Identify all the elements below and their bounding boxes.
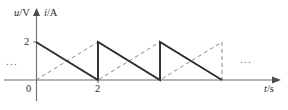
y-axis-right-label: i/A xyxy=(44,8,57,19)
y-axis-arrowhead xyxy=(33,8,40,16)
y-axis-left-label: u/V xyxy=(14,8,30,19)
y-axis xyxy=(33,8,40,101)
solid-waveform-path xyxy=(36,42,222,80)
right-ellipsis-annotation: ... xyxy=(240,54,252,65)
x-axis-label: t/s xyxy=(264,84,274,95)
x-axis xyxy=(4,76,281,83)
solid-series-voltage xyxy=(36,42,222,80)
y-axis-tick-label-2: 2 xyxy=(24,37,29,48)
tick-marks xyxy=(34,42,99,83)
waveform-figure: u/V i/A t/s 2 0 2 ... ... xyxy=(0,0,288,110)
origin-tick-label: 0 xyxy=(26,84,31,95)
x-axis-tick-label-2: 2 xyxy=(95,84,100,95)
left-ellipsis-annotation: ... xyxy=(6,56,18,67)
